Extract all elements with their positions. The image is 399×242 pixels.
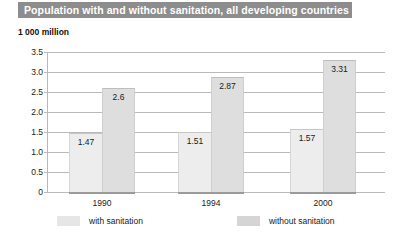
bar-value-label: 1.51 [179,136,211,146]
y-axis-tick-mark [44,132,47,133]
x-axis-tick-label: 2000 [290,198,356,208]
legend-item-with-sanitation: with sanitation [57,216,143,226]
legend-label-without-sanitation: without sanitation [269,216,335,226]
y-axis-tick-mark [44,72,47,73]
bar-value-label: 1.57 [291,133,323,143]
bar-with-sanitation[interactable]: 1.47 [69,133,102,192]
bar-value-label: 2.6 [103,92,134,102]
legend-item-without-sanitation: without sanitation [237,216,335,226]
x-axis-tick-label: 1994 [178,198,244,208]
bar-with-sanitation[interactable]: 1.51 [178,132,211,192]
legend-swatch-icon-with-sanitation [57,216,80,226]
bar-without-sanitation[interactable]: 2.87 [211,77,244,192]
bar-group: 1.573.312000 [290,52,356,192]
bar-value-label: 2.87 [212,81,243,91]
bar-value-label: 1.47 [70,137,102,147]
bar-with-sanitation[interactable]: 1.57 [290,129,323,192]
y-axis-tick-label: 3.0 [31,67,43,77]
y-axis-tick-label: 1.0 [31,147,43,157]
y-axis-tick-label: 2.0 [31,107,43,117]
bar-group-baseline [290,192,356,194]
chart-page: Population with and without sanitation, … [0,0,399,242]
y-axis-tick-mark [44,172,47,173]
y-axis-tick-label: 1.5 [31,127,43,137]
y-axis-tick-label: 2.5 [31,87,43,97]
y-axis-tick-mark [44,192,47,193]
bar-group: 1.512.871994 [178,52,244,192]
bar-without-sanitation[interactable]: 2.6 [102,88,135,192]
y-axis-tick-mark [44,92,47,93]
plot-area: 3.53.02.52.01.51.00.501.472.619901.512.8… [47,52,385,192]
legend-swatch-icon-without-sanitation [237,216,260,226]
bar-group-baseline [178,192,244,194]
y-axis-unit-caption: 1 000 million [18,27,69,37]
bar-value-label: 3.31 [324,64,355,74]
x-axis-tick-label: 1990 [69,198,135,208]
y-axis-tick-mark [44,152,47,153]
bar-without-sanitation[interactable]: 3.31 [323,60,356,192]
y-axis-tick-label: 3.5 [31,47,43,57]
y-axis-tick-label: 0 [38,187,43,197]
chart-title: Population with and without sanitation, … [18,2,352,18]
bar-group: 1.472.61990 [69,52,135,192]
y-axis-tick-label: 0.5 [31,167,43,177]
chart-legend: with sanitation without sanitation [57,216,335,226]
bar-group-baseline [69,192,135,194]
legend-label-with-sanitation: with sanitation [89,216,143,226]
y-axis-tick-mark [44,112,47,113]
y-axis-tick-mark [44,52,47,53]
